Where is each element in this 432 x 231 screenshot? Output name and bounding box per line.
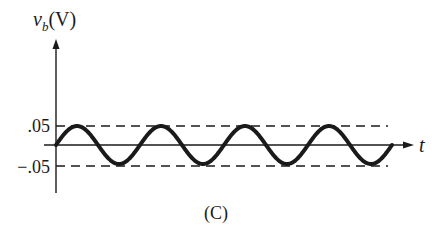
- y-axis-label: vb(V): [33, 8, 76, 34]
- x-axis-label: t: [419, 134, 425, 156]
- y-axis-var: v: [33, 8, 42, 30]
- figure-caption: (C): [204, 203, 228, 224]
- ytick-label-positive: .05: [28, 116, 51, 136]
- x-axis-arrowhead-icon: [403, 142, 414, 149]
- y-axis-arrowhead-icon: [53, 39, 60, 49]
- sine-waveform-chart: vb(V) t .05 −.05 (C): [0, 0, 432, 231]
- y-axis-unit: (V): [48, 8, 76, 31]
- ytick-label-negative: −.05: [17, 157, 50, 177]
